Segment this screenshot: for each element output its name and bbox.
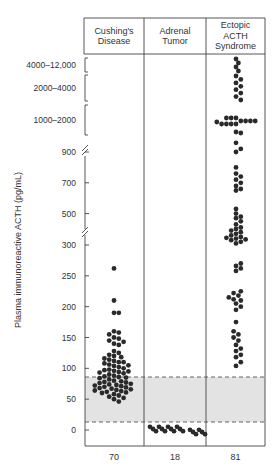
data-point xyxy=(102,356,107,361)
data-point xyxy=(124,380,129,385)
data-point xyxy=(234,216,239,221)
data-point xyxy=(238,91,243,96)
data-point xyxy=(214,120,219,125)
data-point xyxy=(236,61,241,66)
data-point xyxy=(234,57,239,62)
column-headers: Cushing'sDiseaseAdrenalTumorEctopicACTHS… xyxy=(94,20,256,51)
data-point xyxy=(238,119,243,124)
y-axis-title: Plasma immunoreactive ACTH (pg/mL) xyxy=(13,172,23,328)
column-header-line: Disease xyxy=(98,36,131,46)
data-point xyxy=(229,238,234,243)
data-point xyxy=(234,236,239,241)
y-tick-label: 500 xyxy=(62,209,76,219)
data-point xyxy=(234,177,239,182)
data-point xyxy=(116,399,121,404)
data-point xyxy=(229,233,234,238)
data-point xyxy=(234,81,239,86)
data-point xyxy=(102,361,107,366)
data-point xyxy=(236,332,241,337)
column-header-line: Adrenal xyxy=(159,26,190,36)
data-point xyxy=(234,171,239,176)
data-point xyxy=(128,381,133,386)
data-point xyxy=(231,335,236,340)
y-range-label: 1000–2000 xyxy=(33,115,76,125)
data-point xyxy=(238,174,243,179)
data-point xyxy=(203,432,208,437)
data-point xyxy=(124,385,129,390)
data-point xyxy=(236,293,241,298)
data-point xyxy=(234,65,239,70)
data-point xyxy=(238,352,243,357)
data-point xyxy=(226,295,231,300)
data-point xyxy=(234,301,239,306)
data-point xyxy=(107,362,112,367)
data-point xyxy=(181,429,186,434)
column-header-line: Cushing's xyxy=(94,26,134,36)
data-point xyxy=(231,291,236,296)
data-point xyxy=(107,394,112,399)
data-point xyxy=(231,329,236,334)
data-point xyxy=(112,310,117,315)
data-point xyxy=(238,298,243,303)
data-point xyxy=(114,383,119,388)
data-point xyxy=(107,352,112,357)
data-point xyxy=(234,188,239,193)
data-point xyxy=(229,228,234,233)
data-point xyxy=(121,360,126,365)
data-point xyxy=(219,122,224,127)
data-point xyxy=(243,237,248,242)
data-point xyxy=(102,384,107,389)
data-point xyxy=(116,330,121,335)
data-point xyxy=(238,77,243,82)
data-point xyxy=(234,231,239,236)
data-point xyxy=(107,377,112,382)
data-point xyxy=(234,349,239,354)
data-point xyxy=(112,341,117,346)
data-point xyxy=(116,336,121,341)
data-point xyxy=(234,94,239,99)
data-point xyxy=(119,355,124,360)
data-point xyxy=(234,207,239,212)
data-point xyxy=(97,376,102,381)
data-point xyxy=(229,116,234,121)
group-counts: 701881 xyxy=(109,452,241,462)
data-point xyxy=(234,307,239,312)
data-point xyxy=(234,343,239,348)
data-point xyxy=(112,266,117,271)
data-point xyxy=(243,119,248,124)
data-point xyxy=(112,364,117,369)
data-point xyxy=(234,130,239,135)
data-point xyxy=(112,392,117,397)
data-point xyxy=(234,211,239,216)
data-point xyxy=(236,338,241,343)
data-point xyxy=(97,370,102,375)
y-tick-label: 0 xyxy=(71,425,76,435)
data-point xyxy=(238,239,243,244)
group-count: 81 xyxy=(230,452,240,462)
data-point xyxy=(234,150,239,155)
data-point xyxy=(238,261,243,266)
data-point xyxy=(234,122,239,127)
data-point xyxy=(234,184,239,189)
data-point xyxy=(107,372,112,377)
data-point xyxy=(224,122,229,127)
data-point xyxy=(92,388,97,393)
data-point xyxy=(102,374,107,379)
data-point xyxy=(234,355,239,360)
data-point xyxy=(119,379,124,384)
data-point xyxy=(238,98,243,103)
y-tick-label: 200 xyxy=(62,302,76,312)
data-point xyxy=(238,147,243,152)
data-point xyxy=(126,369,131,374)
data-point xyxy=(112,298,117,303)
data-point xyxy=(116,375,121,380)
data-point xyxy=(102,380,107,385)
data-point xyxy=(234,222,239,227)
data-point xyxy=(229,122,234,127)
data-point xyxy=(112,378,117,383)
y-tick-label: 50 xyxy=(67,394,77,404)
data-point xyxy=(112,349,117,354)
data-point xyxy=(238,225,243,230)
data-point xyxy=(112,329,117,334)
group-count: 70 xyxy=(109,452,119,462)
